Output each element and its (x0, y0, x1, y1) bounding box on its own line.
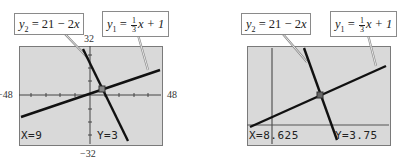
y-max-tick-label: 32 (84, 33, 94, 44)
y-readout-left: Y=3 (97, 129, 118, 142)
trace-cursor-right (317, 92, 323, 98)
right-graph-panel: y2 = 21 − 2x y1 = 13x + 1 X=8.625 Y=3.75 (200, 0, 401, 162)
y-readout-right: Y=3.75 (335, 129, 378, 142)
x-readout-right: X=8.625 (249, 129, 299, 142)
y2-equation-callout-right: y2 = 21 − 2x (241, 13, 311, 35)
trace-cursor-left (99, 86, 105, 92)
x-max-tick-label: 48 (167, 89, 177, 100)
y1-equation-callout-left: y1 = 13x + 1 (102, 11, 169, 37)
y2-equation-callout-left: y2 = 21 − 2x (14, 13, 84, 35)
y1-equation-callout-right: y1 = 13x + 1 (330, 11, 397, 37)
left-graph-panel: y2 = 21 − 2x y1 = 13x + 1 32 −32 −48 48 … (0, 0, 200, 162)
x-min-tick-label: −48 (0, 89, 13, 100)
x-readout-left: X=9 (21, 129, 42, 142)
y-min-tick-label: −32 (80, 148, 96, 159)
